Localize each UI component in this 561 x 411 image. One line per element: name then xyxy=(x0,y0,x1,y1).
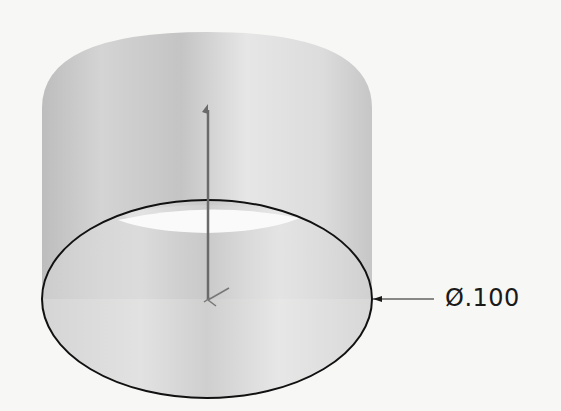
cad-viewport xyxy=(0,0,561,411)
diameter-dimension[interactable]: Ø.100 xyxy=(445,283,520,313)
leader-arrow-icon xyxy=(373,296,382,302)
